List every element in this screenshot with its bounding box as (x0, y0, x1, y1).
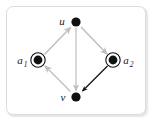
node-u-dot (71, 17, 80, 26)
node-a2-label: a (123, 54, 129, 66)
node-a1-label: a (17, 54, 23, 66)
edge-u-to-a2 (81, 27, 107, 54)
node-a1-label-subscript: 1 (24, 60, 28, 69)
graph-canvas: u a 1 a 2 v (0, 0, 153, 123)
node-a1-dot (34, 56, 43, 65)
edge-group (45, 27, 108, 92)
edge-a1-to-u (45, 28, 71, 55)
figure-root: u a 1 a 2 v (0, 0, 153, 123)
node-v-label: v (61, 91, 66, 103)
node-a2-dot (109, 56, 118, 65)
node-a2-label-subscript: 2 (130, 60, 134, 69)
node-a1[interactable]: a 1 (17, 53, 45, 69)
node-v-dot (71, 92, 80, 101)
edge-v-to-a1 (45, 66, 71, 92)
node-u[interactable]: u (59, 15, 80, 27)
node-u-label: u (59, 15, 65, 27)
edge-a2-to-v (83, 66, 108, 91)
node-a2[interactable]: a 2 (106, 53, 134, 69)
node-v[interactable]: v (61, 91, 81, 103)
